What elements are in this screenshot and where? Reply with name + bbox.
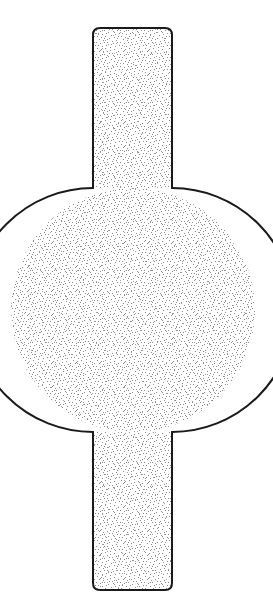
technical-drawing-svg: [0, 0, 273, 616]
figure-canvas: [0, 0, 273, 616]
